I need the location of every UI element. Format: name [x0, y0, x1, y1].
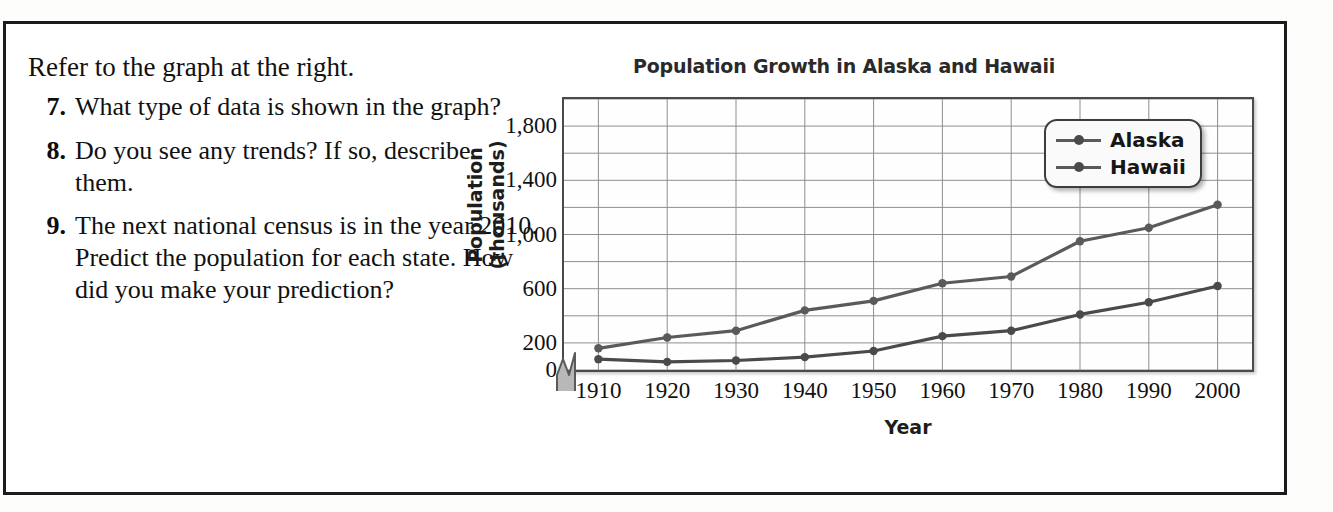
x-tick-label: 2000 [1195, 378, 1241, 404]
x-axis-label: Year [562, 416, 1254, 438]
exercise-panel: Refer to the graph at the right. 7. What… [3, 21, 1287, 495]
data-point-hawaii [1213, 282, 1221, 290]
data-point-alaska [1145, 224, 1153, 232]
question-number-7: 7. [28, 91, 75, 123]
data-point-alaska [801, 306, 809, 314]
data-point-alaska [594, 344, 602, 352]
data-point-hawaii [732, 356, 740, 364]
data-point-hawaii [1007, 327, 1015, 335]
x-tick-label: 1960 [919, 378, 965, 404]
line-chart: Population Growth in Alaska and Hawaii P… [419, 31, 1279, 451]
x-tick-label: 1910 [575, 378, 621, 404]
data-point-hawaii [869, 347, 877, 355]
x-tick-label: 1990 [1126, 378, 1172, 404]
question-number-9: 9. [28, 210, 75, 242]
data-point-alaska [732, 327, 740, 335]
x-tick-label: 1940 [782, 378, 828, 404]
series-line-alaska [598, 205, 1217, 349]
x-tick-label: 1920 [644, 378, 690, 404]
x-tick-label: 1930 [713, 378, 759, 404]
y-tick-label: 1,400 [505, 167, 557, 193]
y-tick-label: 600 [523, 276, 558, 302]
data-point-hawaii [938, 332, 946, 340]
question-number-8: 8. [28, 135, 75, 167]
y-tick-label: 1,800 [505, 113, 557, 139]
legend-marker-icon [1056, 160, 1101, 174]
data-point-hawaii [801, 353, 809, 361]
y-tick-label: 1,000 [505, 222, 557, 248]
y-axis-ticks: 1,8001,4001,0006002000 [454, 97, 557, 372]
data-point-alaska [663, 333, 671, 341]
data-point-alaska [1213, 200, 1221, 208]
page-root: Refer to the graph at the right. 7. What… [0, 0, 1333, 512]
data-point-hawaii [594, 355, 602, 363]
chart-legend: AlaskaHawaii [1044, 119, 1202, 188]
x-axis-ticks: 1910192019301940195019601970198019902000 [562, 378, 1254, 410]
series-line-hawaii [598, 286, 1217, 362]
data-point-hawaii [1076, 310, 1084, 318]
chart-title: Population Growth in Alaska and Hawaii [564, 55, 1124, 77]
legend-label: Alaska [1110, 128, 1185, 152]
data-point-hawaii [663, 358, 671, 366]
legend-item-hawaii: Hawaii [1056, 153, 1186, 180]
legend-label: Hawaii [1110, 155, 1186, 179]
x-tick-label: 1980 [1057, 378, 1103, 404]
data-point-alaska [1007, 272, 1015, 280]
x-tick-label: 1970 [988, 378, 1034, 404]
data-point-hawaii [1145, 298, 1153, 306]
data-point-alaska [938, 279, 946, 287]
x-tick-label: 1950 [851, 378, 897, 404]
data-point-alaska [1076, 237, 1084, 245]
legend-marker-icon [1056, 133, 1101, 147]
data-point-alaska [869, 297, 877, 305]
y-tick-label: 200 [523, 330, 558, 356]
legend-item-alaska: Alaska [1056, 126, 1186, 153]
